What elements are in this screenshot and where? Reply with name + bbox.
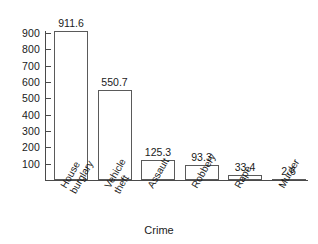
y-axis-line [45, 31, 46, 181]
y-axis-tick [45, 33, 51, 34]
y-axis-tick-label: 800 [0, 44, 40, 55]
y-axis-tick [45, 98, 51, 99]
y-axis-tick-label: 600 [0, 77, 40, 88]
y-axis-tick [45, 115, 51, 116]
y-axis-tick-label: 400 [0, 110, 40, 121]
y-axis-tick-label: 300 [0, 126, 40, 137]
y-axis-tick [45, 131, 51, 132]
y-axis-tick-label: 700 [0, 61, 40, 72]
y-axis-tick [45, 66, 51, 67]
bar-value-label: 550.7 [85, 77, 145, 88]
bar-value-label: 911.6 [41, 18, 101, 29]
plot-area: 100200300400500600700800900 911.6550.712… [0, 0, 318, 244]
y-axis-tick-label: 100 [0, 159, 40, 170]
x-axis-title: Crime [0, 224, 318, 236]
y-axis-tick-label: 200 [0, 142, 40, 153]
y-axis-tick-label: 900 [0, 28, 40, 39]
y-axis-tick [45, 49, 51, 50]
y-axis-tick [45, 164, 51, 165]
y-axis-tick [45, 82, 51, 83]
bar-chart: 100200300400500600700800900 911.6550.712… [0, 0, 318, 244]
y-axis-tick [45, 147, 51, 148]
y-axis-tick-label: 500 [0, 93, 40, 104]
